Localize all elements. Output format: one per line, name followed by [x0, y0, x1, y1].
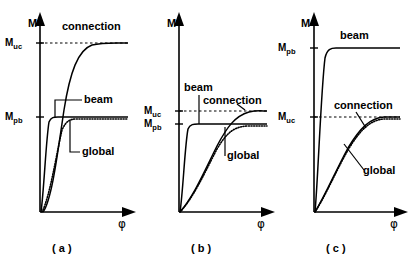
moment-rotation-figure: M φ Muc Mpb connection beam global ( a ) [0, 0, 418, 270]
tick-label-mpb: Mpb [5, 112, 23, 125]
y-axis-label: M [301, 18, 310, 29]
curve-label-connection: connection [62, 21, 121, 32]
curve-label-connection: connection [334, 100, 393, 111]
x-axis-label: φ [390, 218, 398, 230]
curve-label-global: global [82, 146, 114, 157]
curve-connection [43, 43, 128, 212]
leader-beam [55, 100, 82, 117]
panel-caption-b: ( b ) [191, 243, 211, 254]
curve-label-beam: beam [84, 94, 113, 105]
x-axis-arrowhead [261, 207, 275, 217]
curve-global [42, 119, 128, 212]
tick-label-mpb-sub: pb [152, 123, 161, 132]
curve-global [180, 126, 267, 212]
leader-connection [356, 112, 366, 128]
leader-global [70, 120, 80, 152]
y-axis-label: M [167, 18, 176, 29]
tick-label-mpb: Mpb [278, 43, 296, 56]
curve-label-connection: connection [203, 95, 262, 106]
y-axis-arrowhead [309, 12, 319, 26]
tick-label-muc-sub: uc [13, 42, 22, 51]
tick-label-mpb: Mpb [144, 119, 162, 132]
x-axis-label: φ [118, 218, 126, 230]
curve-label-global: global [363, 165, 395, 176]
tick-label-muc: Muc [278, 112, 295, 125]
panel-c: M φ Mpb Muc beam connection global ( c ) [278, 0, 417, 270]
tick-label-mpb-sub: pb [13, 116, 22, 125]
curve-label-beam: beam [340, 30, 369, 41]
x-axis-arrowhead [122, 207, 136, 217]
curve-beam [41, 117, 128, 212]
x-axis-arrowhead [394, 207, 408, 217]
panel-a: M φ Muc Mpb connection beam global ( a ) [0, 0, 139, 270]
leader-global [344, 144, 364, 170]
panel-caption-c: ( c ) [326, 243, 346, 254]
curve-label-global: global [227, 150, 259, 161]
tick-label-muc: Muc [5, 38, 22, 51]
panel-b: M φ Muc Mpb beam connection global ( b ) [139, 0, 278, 270]
curve-beam [180, 124, 267, 212]
y-axis-label: M [28, 18, 37, 29]
tick-label-muc: Muc [144, 106, 161, 119]
panel-caption-a: ( a ) [52, 243, 72, 254]
tick-label-mpb-sub: pb [286, 47, 295, 56]
curve-label-beam: beam [184, 82, 213, 93]
tick-label-muc-sub: uc [152, 110, 161, 119]
x-axis-label: φ [257, 218, 265, 230]
tick-label-muc-sub: uc [286, 116, 295, 125]
